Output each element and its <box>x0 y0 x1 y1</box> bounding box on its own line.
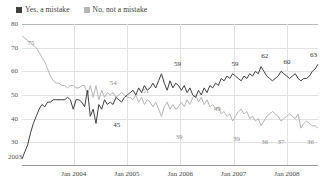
x-axis-tick-label: Jan 2004 <box>61 170 86 178</box>
y-axis-tick-label: 60 <box>2 67 18 75</box>
data-point-label: 45 <box>113 121 120 129</box>
y-axis-tick-label: 80 <box>2 20 18 28</box>
series-lines <box>22 24 318 166</box>
x-axis-tick-label: Jan 2008 <box>274 170 299 178</box>
chart-legend: Yes, a mistake No, not a mistake <box>16 5 147 14</box>
y-axis-tick-label: 70 <box>2 44 18 52</box>
poll-line-chart: Yes, a mistake No, not a mistake 8070605… <box>0 0 328 185</box>
y-axis-tick-label: 30 <box>2 138 18 146</box>
series-start-label: 2003 <box>8 153 22 161</box>
data-point-label: 54 <box>110 79 117 87</box>
data-point-label: 59 <box>232 60 239 68</box>
data-point-label: 75 <box>27 39 34 47</box>
y-axis-tick-label: 50 <box>2 91 18 99</box>
legend-swatch-dark <box>16 7 22 13</box>
x-axis-tick-label: Jan 2006 <box>168 170 193 178</box>
data-point-label: 60 <box>283 58 290 66</box>
data-point-label: 36 <box>261 138 268 146</box>
legend-swatch-light <box>84 7 90 13</box>
data-point-label: 59 <box>174 60 181 68</box>
data-point-label: 39 <box>175 133 182 141</box>
legend-label-yes-a-mistake: Yes, a mistake <box>25 5 70 14</box>
data-point-label: 39 <box>233 135 240 143</box>
x-axis-tick-label: Jan 2007 <box>221 170 246 178</box>
data-point-label: 37 <box>278 138 285 146</box>
legend-item-yes-a-mistake[interactable]: Yes, a mistake <box>16 5 70 14</box>
data-point-label: 49 <box>214 105 221 113</box>
x-axis-tick-label: Jan 2005 <box>115 170 140 178</box>
data-point-label: 51 <box>142 87 149 95</box>
plot-area: 807060504030 Jan 2004Jan 2005Jan 2006Jan… <box>22 24 318 166</box>
legend-label-no-not-a-mistake: No, not a mistake <box>93 5 148 14</box>
data-point-label: 36 <box>307 138 314 146</box>
legend-item-no-not-a-mistake[interactable]: No, not a mistake <box>84 5 148 14</box>
y-axis-tick-label: 40 <box>2 115 18 123</box>
data-point-label: 63 <box>310 51 317 59</box>
data-point-label: 62 <box>261 52 268 60</box>
series-line <box>22 64 318 159</box>
